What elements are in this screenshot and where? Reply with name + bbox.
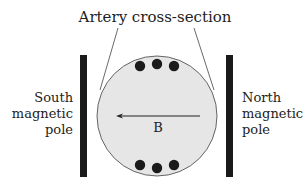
ion-dot — [169, 61, 179, 71]
north-pole-label-1: North — [242, 90, 282, 105]
field-label: B — [153, 120, 163, 135]
south-pole-bar — [80, 55, 87, 177]
ion-dot — [135, 61, 145, 71]
ion-dot — [135, 160, 145, 170]
north-pole-label-3: pole — [242, 122, 270, 137]
ion-dot — [152, 59, 162, 69]
north-pole-bar — [226, 55, 233, 177]
south-pole-label-3: pole — [45, 122, 73, 137]
south-pole-label-2: magnetic — [12, 106, 73, 121]
ion-dot — [152, 163, 162, 173]
south-pole-label-1: South — [34, 90, 73, 105]
ion-dot — [169, 160, 179, 170]
title-label: Artery cross-section — [78, 8, 232, 26]
diagram: Artery cross-section B South magnetic po… — [0, 0, 307, 184]
north-pole-label-2: magnetic — [242, 106, 303, 121]
